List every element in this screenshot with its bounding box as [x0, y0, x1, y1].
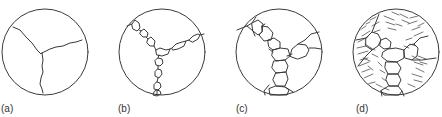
panel-b-boundaries [127, 24, 204, 95]
panel-d-boundaries [356, 14, 436, 96]
panel-b [119, 9, 205, 96]
panel-b-label: (b) [118, 103, 130, 114]
panel-c [236, 9, 322, 95]
panel-a-label: (a) [1, 103, 13, 114]
panel-a [2, 9, 88, 95]
panel-d-lamellae [357, 12, 427, 90]
micrograph-diagram: (a) (b) (c) (d) [0, 0, 442, 117]
panel-b-circle [119, 9, 205, 95]
panel-d [353, 9, 439, 96]
panel-d-circle [353, 9, 439, 95]
panel-c-label: (c) [236, 103, 248, 114]
panel-d-label: (d) [356, 103, 368, 114]
panel-a-boundaries [13, 27, 82, 93]
panel-d-precipitates [366, 32, 418, 95]
panel-c-precipitates [252, 20, 309, 95]
panel-c-circle [236, 9, 322, 95]
